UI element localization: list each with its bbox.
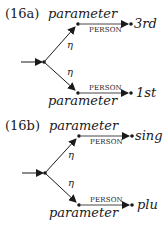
top-node xyxy=(77,134,81,138)
top-node-label: parameter xyxy=(49,118,119,133)
value-node-bottom xyxy=(130,203,134,207)
eta-label-down: η xyxy=(68,177,74,188)
eta-label-down: η xyxy=(67,66,73,77)
eta-label-up: η xyxy=(68,149,74,160)
value-label-top: 3rd xyxy=(134,16,157,31)
value-label-top: sing xyxy=(135,128,163,143)
example-label: (16b) xyxy=(5,118,40,133)
example-label: (16a) xyxy=(5,6,39,21)
person-edge-label-bottom: PERSON xyxy=(90,196,123,204)
bottom-node-label: parameter xyxy=(49,205,119,220)
value-node-top xyxy=(130,134,134,138)
top-node-label: parameter xyxy=(48,6,118,21)
bottom-node-label: parameter xyxy=(48,93,118,108)
value-label-bottom: 1st xyxy=(136,85,157,100)
person-edge-label-bottom: PERSON xyxy=(89,84,122,92)
person-edge-label-top: PERSON xyxy=(90,138,123,146)
value-node-top xyxy=(129,22,133,26)
diagram-16a: (16a) parameter η η PERSON 3rd PERSON 1s… xyxy=(5,6,157,108)
value-node-bottom xyxy=(129,91,133,95)
feature-diagram: (16a) parameter η η PERSON 3rd PERSON 1s… xyxy=(0,0,168,225)
eta-label-up: η xyxy=(67,39,73,50)
person-edge-label-top: PERSON xyxy=(89,26,122,34)
value-label-bottom: plu xyxy=(137,197,158,212)
diagram-16b: (16b) parameter η η PERSON sing PERSON p… xyxy=(5,118,163,220)
top-node xyxy=(76,22,80,26)
